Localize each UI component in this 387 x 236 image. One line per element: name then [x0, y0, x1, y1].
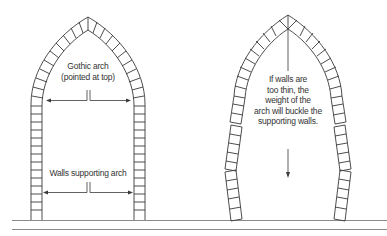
arch-width-arrow	[46, 90, 131, 103]
gothic-arch-label: Gothic arch (pointed at top)	[48, 61, 128, 82]
caption-line-1: If walls are	[243, 74, 333, 85]
caption-line-3: weight of the	[243, 95, 333, 106]
ground-lines	[12, 221, 387, 230]
buckling-caption: If walls are too thin, the weight of the…	[243, 74, 333, 127]
caption-line-5: supporting walls.	[243, 116, 333, 127]
walls-width-arrow	[43, 182, 133, 195]
gothic-arch-title: Gothic arch	[48, 61, 128, 72]
walls-supporting-label: Walls supporting arch	[38, 168, 138, 179]
gothic-arch-subtitle: (pointed at top)	[48, 72, 128, 83]
caption-line-4: arch will buckle the	[243, 106, 333, 117]
caption-line-2: too thin, the	[243, 85, 333, 96]
gothic-arch-left	[31, 17, 145, 220]
